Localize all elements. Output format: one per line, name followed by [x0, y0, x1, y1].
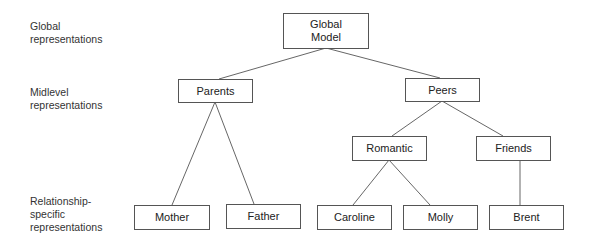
node-label: Father — [248, 210, 280, 223]
node-mother: Mother — [134, 205, 210, 230]
node-label: Mother — [155, 211, 189, 224]
node-label: Model — [310, 31, 342, 44]
node-molly: Molly — [403, 205, 478, 230]
node-global-model: Global Model — [283, 13, 369, 49]
node-label: Global — [310, 18, 342, 31]
edge-peers-romantic — [392, 101, 442, 136]
node-peers: Peers — [405, 78, 480, 102]
edge-parents-father — [215, 102, 254, 204]
node-caroline: Caroline — [317, 205, 392, 230]
edge-global-peers — [326, 48, 440, 78]
node-parents: Parents — [178, 79, 253, 103]
node-label: Caroline — [334, 211, 375, 224]
node-father: Father — [226, 204, 301, 229]
node-label: Peers — [428, 84, 457, 97]
node-label: Molly — [428, 211, 454, 224]
edge-peers-friends — [442, 101, 503, 136]
node-label: Friends — [495, 142, 532, 155]
node-romantic: Romantic — [352, 136, 427, 161]
edge-global-parents — [219, 48, 326, 79]
node-brent: Brent — [489, 205, 564, 230]
node-label: Romantic — [366, 142, 412, 155]
edge-romantic-molly — [389, 160, 430, 205]
node-friends: Friends — [476, 136, 551, 161]
node-label: Brent — [513, 211, 539, 224]
node-label: Parents — [197, 85, 235, 98]
edge-parents-mother — [172, 102, 215, 205]
edge-romantic-caroline — [353, 160, 389, 205]
